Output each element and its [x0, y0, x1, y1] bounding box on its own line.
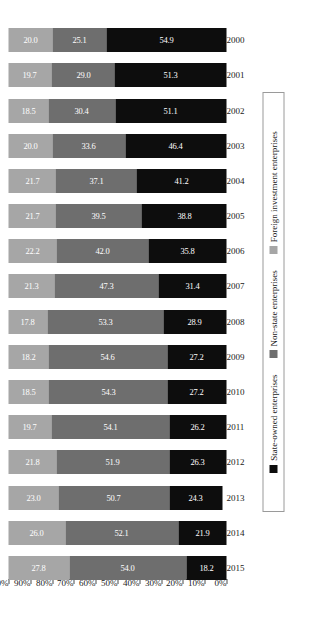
year-label: 2012 [223, 457, 247, 467]
segment-state-owned: 51.1 [115, 99, 226, 123]
bar-column: 18.254.627.2 [8, 345, 226, 369]
segment-foreign-investment: 26.0 [8, 521, 65, 545]
bar-column: 20.033.646.4 [8, 134, 226, 158]
data-label: 26.3 [190, 458, 204, 467]
data-label: 37.1 [89, 177, 103, 186]
bar-column: 26.052.121.9 [8, 521, 226, 545]
segment-foreign-investment: 17.8 [8, 310, 47, 334]
segment-foreign-investment: 21.8 [8, 450, 56, 474]
legend-item[interactable]: State-owned enterprises [268, 375, 278, 473]
year-label: 2005 [223, 211, 247, 221]
data-label: 21.9 [195, 529, 209, 538]
chart-figure: 100%90%80%70%60%50%40%30%20%10%0% 27.854… [0, 0, 315, 632]
year-label: 2003 [223, 141, 247, 151]
segment-non-state: 53.3 [47, 310, 163, 334]
segment-state-owned: 27.2 [167, 380, 226, 404]
data-label: 28.9 [187, 317, 201, 326]
segment-non-state: 50.7 [58, 486, 169, 510]
legend-swatch-nonstate [269, 351, 277, 359]
data-label: 54.6 [100, 353, 114, 362]
data-label: 27.2 [189, 388, 203, 397]
percent-tick-label: 100% [0, 578, 8, 588]
segment-state-owned: 41.2 [136, 169, 226, 193]
segment-non-state: 51.9 [56, 450, 169, 474]
year-label: 2011 [223, 422, 247, 432]
data-label: 24.3 [188, 493, 202, 502]
data-label: 18.5 [21, 106, 35, 115]
data-label: 21.8 [25, 458, 39, 467]
segment-non-state: 54.0 [69, 556, 187, 580]
segment-foreign-investment: 21.7 [8, 204, 55, 228]
data-label: 20.0 [23, 36, 37, 45]
segment-state-owned: 31.4 [158, 275, 226, 299]
segment-state-owned: 28.9 [163, 310, 226, 334]
segment-non-state: 33.6 [52, 134, 125, 158]
data-label: 51.1 [163, 106, 177, 115]
year-label: 2013 [223, 493, 247, 503]
data-label: 33.6 [81, 142, 95, 151]
segment-foreign-investment: 20.0 [8, 28, 52, 52]
segment-non-state: 42.0 [56, 239, 148, 263]
segment-non-state: 54.3 [48, 380, 166, 404]
legend-swatch-foreign [269, 246, 277, 254]
data-label: 39.5 [91, 212, 105, 221]
segment-foreign-investment: 22.2 [8, 239, 56, 263]
data-label: 25.1 [72, 36, 86, 45]
data-label: 54.1 [103, 423, 117, 432]
segment-non-state: 54.6 [48, 345, 167, 369]
legend-item[interactable]: Foreign investment enterprises [268, 131, 278, 254]
stacked-bar-plot-area: 27.854.018.226.052.121.923.050.724.321.8… [8, 28, 226, 580]
data-label: 30.4 [74, 106, 88, 115]
plot-wrapper: 100%90%80%70%60%50%40%30%20%10%0% 27.854… [0, 0, 315, 632]
segment-foreign-investment: 21.7 [8, 169, 55, 193]
data-label: 27.8 [31, 564, 45, 573]
segment-foreign-investment: 18.2 [8, 345, 48, 369]
segment-state-owned: 27.2 [167, 345, 226, 369]
data-label: 35.8 [180, 247, 194, 256]
year-label: 2010 [223, 387, 247, 397]
year-axis-labels: 2015201420132012201120102009200820072006… [230, 28, 240, 580]
bar-column: 21.851.926.3 [8, 450, 226, 474]
bar-column: 21.739.538.8 [8, 204, 226, 228]
year-label: 2004 [223, 176, 247, 186]
data-label: 29.0 [76, 71, 90, 80]
data-label: 53.3 [98, 317, 112, 326]
data-label: 27.2 [189, 353, 203, 362]
segment-state-owned: 26.3 [169, 450, 226, 474]
chart-legend: State-owned enterprisesNon-state enterpr… [262, 92, 284, 512]
segment-foreign-investment: 23.0 [8, 486, 58, 510]
bar-column: 17.853.328.9 [8, 310, 226, 334]
data-label: 38.8 [177, 212, 191, 221]
bar-column: 19.754.126.2 [8, 415, 226, 439]
year-label: 2001 [223, 70, 247, 80]
segment-state-owned: 21.9 [178, 521, 226, 545]
data-label: 18.2 [199, 564, 213, 573]
year-label: 2000 [223, 35, 247, 45]
data-label: 22.2 [25, 247, 39, 256]
segment-state-owned: 51.3 [114, 63, 226, 87]
data-label: 51.3 [163, 71, 177, 80]
data-label: 18.5 [21, 388, 35, 397]
legend-item[interactable]: Non-state enterprises [268, 270, 278, 358]
legend-label: State-owned enterprises [268, 375, 278, 461]
segment-non-state: 52.1 [65, 521, 179, 545]
data-label: 18.2 [21, 353, 35, 362]
legend-swatch-state [269, 465, 277, 473]
data-label: 21.7 [25, 177, 39, 186]
data-label: 17.8 [20, 317, 34, 326]
data-label: 19.7 [22, 423, 36, 432]
data-label: 54.0 [120, 564, 134, 573]
data-label: 54.3 [100, 388, 114, 397]
bar-column: 21.347.331.4 [8, 275, 226, 299]
data-label: 21.7 [25, 212, 39, 221]
data-label: 54.9 [159, 36, 173, 45]
data-label: 19.7 [22, 71, 36, 80]
year-label: 2009 [223, 352, 247, 362]
legend-label: Foreign investment enterprises [268, 131, 278, 242]
data-label: 50.7 [106, 493, 120, 502]
data-label: 51.9 [105, 458, 119, 467]
segment-foreign-investment: 19.7 [8, 415, 51, 439]
year-label: 2006 [223, 246, 247, 256]
segment-foreign-investment: 21.3 [8, 275, 54, 299]
segment-non-state: 47.3 [54, 275, 157, 299]
